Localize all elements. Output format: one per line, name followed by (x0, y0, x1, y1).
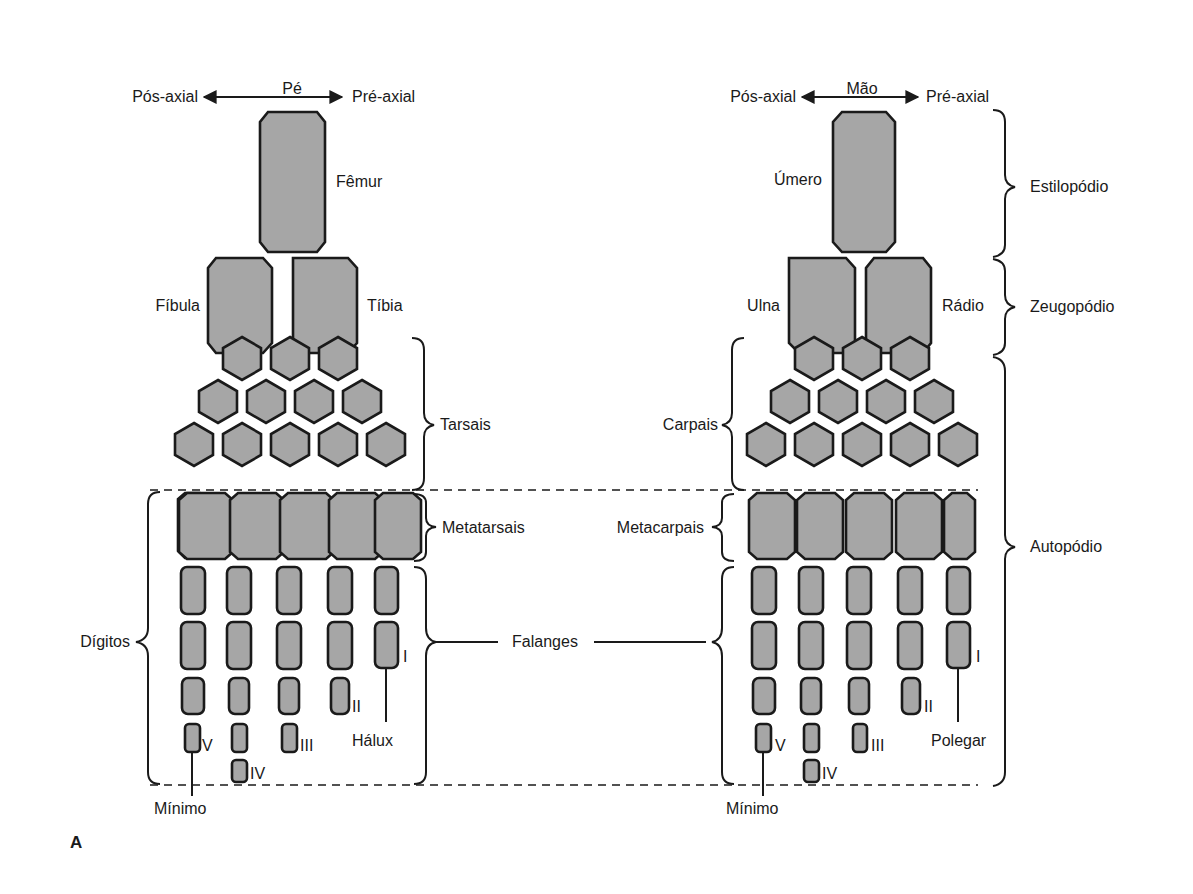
svg-text:IV: IV (250, 765, 265, 782)
zeugopod-brace (993, 259, 1015, 355)
radius-bone (866, 258, 931, 353)
svg-text:V: V (775, 737, 786, 754)
svg-text:III: III (871, 737, 884, 754)
ulna-bone (789, 258, 855, 353)
humerus-label: Úmero (774, 170, 822, 188)
svg-text:IV: IV (822, 765, 837, 782)
hand-minimo-label: Mínimo (726, 800, 779, 817)
hand-postaxial-label: Pós-axial (730, 88, 796, 105)
hand-title: Mão (846, 80, 877, 97)
metacarpals-label: Metacarpais (617, 519, 704, 536)
foot-minimo-label: Mínimo (154, 800, 207, 817)
svg-text:III: III (300, 737, 313, 754)
carpals-label: Carpais (663, 416, 718, 433)
svg-text:I: I (403, 648, 407, 665)
carpal-bones (747, 337, 977, 466)
tarsals-brace (412, 338, 434, 490)
autopod-label: Autopódio (1030, 538, 1102, 555)
radius-label: Rádio (942, 297, 984, 314)
tarsal-bones (175, 337, 405, 466)
ulna-label: Ulna (747, 297, 780, 314)
limb-skeleton-diagram: Pé Pós-axial Pré-axial Fêmur Fíbula Tíbi… (0, 0, 1193, 894)
hand-preaxial-label: Pré-axial (926, 88, 989, 105)
stylopod-brace (993, 110, 1015, 257)
foot-preaxial-label: Pré-axial (352, 88, 415, 105)
humerus-bone (833, 112, 895, 252)
metatarsals-label: Metatarsais (442, 519, 525, 536)
tibia-bone (293, 258, 357, 353)
digits-brace (136, 492, 160, 784)
autopod-brace (993, 357, 1015, 786)
hand-phalanges-brace (712, 567, 734, 784)
tibia-label: Tíbia (367, 297, 403, 314)
foot-phalanges-brace (414, 567, 436, 784)
fibula-label: Fíbula (156, 297, 201, 314)
metacarpal-bones (749, 493, 975, 559)
thumb-label: Polegar (931, 732, 987, 749)
hallux-label: Hálux (352, 732, 393, 749)
svg-text:V: V (202, 737, 213, 754)
hand-diagram: Mão Pós-axial Pré-axial Úmero Ulna Rádio (617, 80, 989, 817)
metacarpals-brace (712, 494, 734, 561)
svg-text:I: I (976, 648, 980, 665)
svg-text:II: II (352, 698, 361, 715)
segment-braces: Estilopódio Zeugopódio Autopódio (993, 110, 1115, 786)
metatarsal-bones (178, 493, 421, 559)
femur-bone (260, 112, 325, 252)
svg-text:II: II (924, 698, 933, 715)
tarsals-label: Tarsais (440, 416, 491, 433)
phalanges-label: Falanges (512, 633, 578, 650)
figure-label: A (70, 833, 82, 852)
digits-label: Dígitos (80, 633, 130, 650)
foot-postaxial-label: Pós-axial (132, 88, 198, 105)
foot-title: Pé (282, 80, 302, 97)
femur-label: Fêmur (336, 173, 383, 190)
foot-phalanges (181, 567, 398, 782)
zeugopod-label: Zeugopódio (1030, 298, 1115, 315)
carpals-brace (722, 338, 744, 490)
foot-diagram: Pé Pós-axial Pré-axial Fêmur Fíbula Tíbi… (80, 80, 525, 817)
stylopod-label: Estilopódio (1030, 178, 1108, 195)
